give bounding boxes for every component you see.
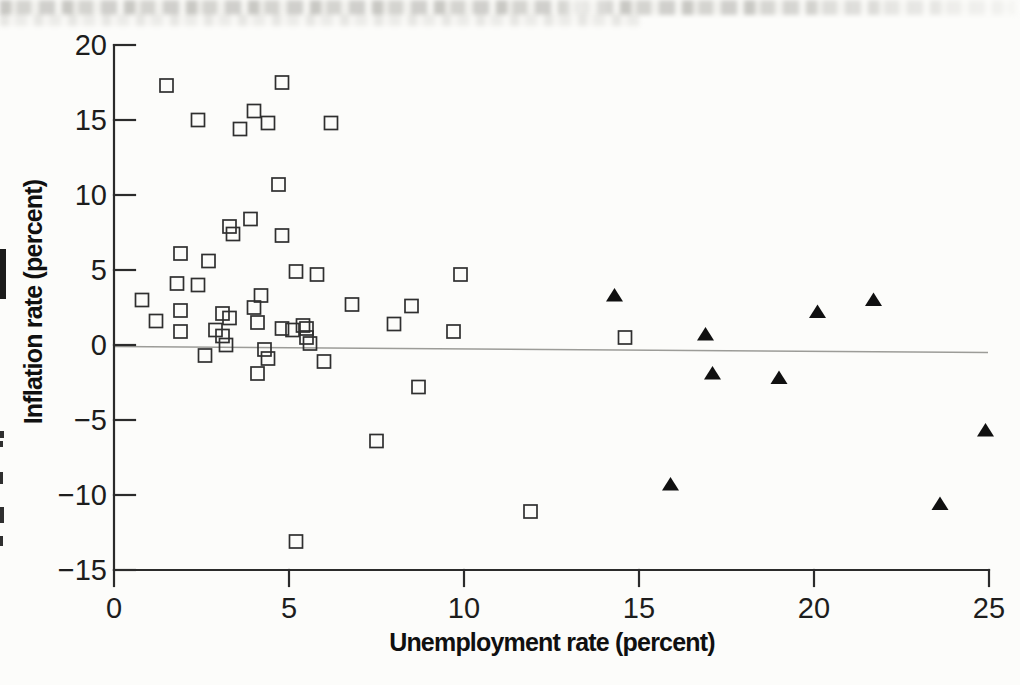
triangle-marker — [865, 293, 882, 307]
square-marker — [619, 331, 632, 344]
triangle-marker — [704, 366, 721, 380]
y-axis-title: Inflation rate (percent) — [19, 179, 47, 424]
y-tick-label: 5 — [91, 254, 107, 286]
square-marker — [220, 339, 233, 352]
square-marker — [300, 322, 313, 335]
square-marker — [234, 123, 247, 136]
square-marker — [202, 255, 215, 268]
square-marker — [248, 301, 261, 314]
square-marker — [174, 304, 187, 317]
x-tick-label: 10 — [448, 592, 480, 624]
x-tick-label: 20 — [798, 592, 830, 624]
y-tick-label: −5 — [74, 404, 107, 436]
square-marker — [262, 117, 275, 130]
scanned-textbook-figure: 20151050−5−10−150510152025 Unemployment … — [0, 0, 1020, 685]
y-tick-label: 0 — [91, 329, 107, 361]
square-marker — [223, 220, 236, 233]
triangle-marker — [606, 288, 623, 302]
square-marker — [405, 300, 418, 313]
x-tick-label: 5 — [281, 592, 297, 624]
square-marker — [248, 105, 261, 118]
y-tick-label: 15 — [75, 104, 107, 136]
square-marker — [171, 277, 184, 290]
x-tick-label: 0 — [106, 592, 122, 624]
inflation-unemployment-scatterplot: 20151050−5−10−150510152025 Unemployment … — [0, 0, 1020, 685]
triangle-marker — [932, 497, 949, 511]
square-marker — [524, 505, 537, 518]
square-marker — [272, 178, 285, 191]
square-marker — [199, 349, 212, 362]
triangle-marker — [662, 477, 679, 491]
square-marker — [447, 325, 460, 338]
square-marker — [251, 367, 264, 380]
square-marker — [227, 228, 240, 241]
square-marker — [290, 535, 303, 548]
square-marker — [325, 117, 338, 130]
square-marker — [192, 114, 205, 127]
square-marker — [388, 318, 401, 331]
square-marker — [160, 79, 173, 92]
square-marker — [136, 294, 149, 307]
plot-layer: 20151050−5−10−150510152025 — [58, 29, 1005, 624]
x-tick-label: 15 — [623, 592, 655, 624]
x-axis-title: Unemployment rate (percent) — [389, 628, 715, 656]
square-marker — [255, 289, 268, 302]
square-marker — [276, 76, 289, 89]
square-marker — [346, 298, 359, 311]
axis-frame — [114, 45, 989, 570]
y-tick-label: 10 — [75, 179, 107, 211]
square-marker — [318, 355, 331, 368]
zero-reference-line — [114, 347, 988, 353]
triangle-marker — [977, 423, 994, 437]
square-marker — [276, 229, 289, 242]
square-marker — [262, 352, 275, 365]
square-marker — [258, 343, 271, 356]
square-marker — [251, 316, 264, 329]
square-marker — [174, 247, 187, 260]
triangle-marker — [771, 371, 788, 385]
x-tick-label: 25 — [973, 592, 1005, 624]
square-marker — [370, 435, 383, 448]
triangle-marker — [697, 327, 714, 341]
y-tick-label: −10 — [58, 479, 107, 511]
y-tick-label: 20 — [75, 29, 107, 61]
square-marker — [192, 279, 205, 292]
y-tick-label: −15 — [58, 554, 107, 586]
square-marker — [290, 265, 303, 278]
square-marker — [244, 213, 257, 226]
square-marker — [412, 381, 425, 394]
triangle-marker — [809, 305, 826, 319]
square-marker — [174, 325, 187, 338]
square-marker — [311, 268, 324, 281]
square-marker — [454, 268, 467, 281]
square-marker — [150, 315, 163, 328]
